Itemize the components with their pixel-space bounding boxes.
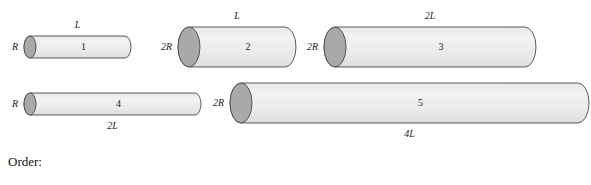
cylinder-5 xyxy=(228,81,591,125)
cylinder-end-cap xyxy=(24,93,36,115)
cylinder-end-cap xyxy=(24,36,36,58)
cylinder-body xyxy=(24,36,131,58)
cylinder-end-cap xyxy=(324,27,346,67)
cylinder-2 xyxy=(176,25,298,69)
cylinder-4-radius-label: R xyxy=(12,99,18,109)
cylinder-4 xyxy=(22,91,203,117)
cylinder-end-cap xyxy=(230,83,252,123)
cylinder-4-index-label: 4 xyxy=(116,99,121,109)
cylinder-1-radius-label: R xyxy=(12,42,18,52)
cylinder-3-length-label: 2L xyxy=(425,11,436,21)
cylinder-2-length-label: L xyxy=(234,11,240,21)
cylinder-1-length-label: L xyxy=(75,20,81,30)
cylinder-figure: RL12RL22R2L3R2L42R4L5 xyxy=(0,0,591,185)
cylinder-body xyxy=(24,93,201,115)
cylinder-5-length-label: 4L xyxy=(404,129,415,139)
cylinder-5-index-label: 5 xyxy=(418,98,423,108)
cylinder-1 xyxy=(22,34,133,60)
cylinder-end-cap xyxy=(178,27,200,67)
cylinder-1-index-label: 1 xyxy=(81,42,86,52)
cylinder-body xyxy=(230,83,589,123)
cylinder-4-length-label: 2L xyxy=(107,121,118,131)
cylinder-3-radius-label: 2R xyxy=(307,42,318,52)
order-prompt-label: Order: xyxy=(8,154,42,170)
cylinder-3 xyxy=(322,25,538,69)
cylinder-2-radius-label: 2R xyxy=(161,42,172,52)
cylinder-body xyxy=(324,27,536,67)
cylinder-5-radius-label: 2R xyxy=(213,98,224,108)
cylinder-3-index-label: 3 xyxy=(439,42,444,52)
cylinder-2-index-label: 2 xyxy=(246,42,251,52)
